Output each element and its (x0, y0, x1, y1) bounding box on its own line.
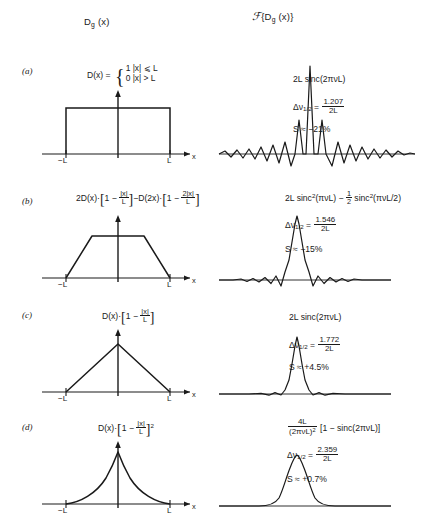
formula-b-p3: −D(2x)· (133, 193, 162, 203)
formula-b-frac2: 2|x|L (181, 190, 195, 206)
row-label-c: (c) (22, 310, 32, 320)
tick-c-xlabel: x (192, 390, 196, 399)
tick-d-xlabel: x (192, 502, 196, 511)
resolution-b-lead: Δν (285, 220, 295, 230)
column-header-spatial: Dg (x) (84, 16, 110, 28)
resolution-a-lead: Δν (293, 102, 303, 112)
transform-d-expression: 4L(2πνL)2 [1 − sinc(2πνL)] (287, 418, 380, 437)
formula-a: D(x) = {1 |x| ⩽ L0 |x| > L (87, 64, 158, 84)
fourier-script-icon: ℱ (252, 10, 261, 22)
header-left-arg: (x) (95, 16, 110, 27)
resolution-a-den: 2L (322, 107, 344, 115)
header-left-main: D (84, 16, 91, 27)
resolution-d-eq: = (306, 450, 316, 460)
row-d: (d) D(x)·[1 − |x|L]2 −L L x (0, 414, 441, 528)
transform-d-fraction: 4L(2πνL)2 (288, 418, 317, 437)
formula-b-p2: 1 − (105, 193, 120, 203)
tick-b-xlabel: x (192, 276, 196, 285)
tick-a-negL: −L (58, 156, 67, 165)
transform-c-expression: 2L sinc(2πνL) (289, 312, 341, 322)
transform-b-p4: (πνL/2) (373, 193, 401, 203)
apodization-figure: Dg (x) ℱ{Dg (x)} (a) D(x) = {1 |x| ⩽ L0 … (0, 0, 441, 528)
formula-d-p2: 1 − (122, 423, 137, 433)
tick-d-negL: −L (58, 506, 67, 515)
sidelobe-b: S ≈ −15% (285, 244, 322, 254)
formula-c-frac-den: L (140, 316, 149, 323)
transform-d-den-sup: 2 (312, 427, 315, 433)
resolution-b: Δν1/2 = 1.5462L (285, 216, 337, 234)
formula-a-lead: D(x) = (87, 70, 113, 80)
formula-a-cases: 1 |x| ⩽ L0 |x| > L (126, 64, 158, 84)
formula-b: 2D(x)·[1 − |x|L]−D(2x)·[1 − 2|x|L] (76, 190, 200, 206)
formula-b-frac1-den: L (119, 198, 128, 205)
header-right-open: {D (261, 11, 271, 22)
plot-a-spatial: −L L x (40, 86, 215, 168)
tick-c-posL: L (167, 394, 171, 403)
tick-a-posL: L (167, 156, 171, 165)
transform-d-frac-den: (2πνL)2 (288, 427, 317, 437)
panel-a-transform: 2L sinc(2πνL) Δν1/2 = 1.2072L S ≈ −21% (215, 58, 441, 178)
resolution-c: Δν1/2 = 1.7722L (289, 336, 341, 354)
transform-b-p2: (πνL) − (315, 193, 346, 203)
panel-c-transform: 2L sinc(2πνL) Δν1/2 = 1.7722L S ≈ +4.5% (215, 302, 441, 422)
row-label-d: (d) (22, 422, 33, 432)
plot-b-spatial: −L L x (40, 210, 215, 294)
resolution-c-fraction: 1.7722L (318, 336, 340, 354)
panel-d-transform: 4L(2πνL)2 [1 − sinc(2πνL)] Δν1/2 = 2.359… (215, 414, 441, 528)
formula-a-case2: 0 |x| > L (126, 74, 158, 84)
formula-c-p1: D(x)· (102, 311, 121, 321)
resolution-a: Δν1/2 = 1.2072L (293, 98, 345, 116)
transform-d-frac-num: 4L (288, 418, 317, 427)
transform-b-p3: sinc (352, 193, 370, 203)
header-right-close: (x)} (276, 11, 294, 22)
brace-icon: { (115, 69, 125, 83)
panel-a-spatial: D(x) = {1 |x| ⩽ L0 |x| > L −L (40, 58, 215, 178)
resolution-b-den: 2L (314, 225, 336, 233)
resolution-a-sub: 1/2 (303, 105, 312, 112)
resolution-d-sub: 1/2 (297, 453, 306, 460)
bracket-close-icon-2: ] (195, 195, 200, 205)
panel-b-spatial: 2D(x)·[1 − |x|L]−D(2x)·[1 − 2|x|L] −L L … (40, 188, 215, 308)
resolution-b-eq: = (304, 220, 314, 230)
formula-b-p4: 1 − (167, 193, 182, 203)
sidelobe-a: S ≈ −21% (293, 124, 330, 134)
panel-c-spatial: D(x)·[1 − |x|L] −L L x (40, 302, 215, 422)
formula-d: D(x)·[1 − |x|L]2 (98, 420, 154, 436)
resolution-c-den: 2L (318, 345, 340, 353)
row-label-a: (a) (22, 66, 33, 76)
row-a: (a) D(x) = {1 |x| ⩽ L0 |x| > L (0, 58, 441, 190)
bracket-close-icon-c: ] (150, 313, 155, 323)
tick-b-negL: −L (58, 280, 67, 289)
formula-b-p1: 2D(x)· (76, 193, 100, 203)
transform-d-den-base: (2πνL) (289, 428, 312, 437)
formula-c-p2: 1 − (126, 311, 141, 321)
row-b: (b) 2D(x)·[1 − |x|L]−D(2x)·[1 − 2|x|L] −… (0, 188, 441, 320)
tick-a-xlabel: x (192, 152, 196, 161)
panel-d-spatial: D(x)·[1 − |x|L]2 −L L x (40, 414, 215, 528)
resolution-c-eq: = (308, 340, 318, 350)
formula-d-p1: D(x)· (98, 423, 117, 433)
resolution-a-fraction: 1.2072L (322, 98, 344, 116)
sidelobe-c: S ≈ +4.5% (289, 362, 329, 372)
formula-d-exponent: 2 (150, 422, 153, 429)
sidelobe-d: S ≈ +0.7% (287, 474, 327, 484)
formula-d-frac-den: L (136, 428, 145, 435)
formula-c-frac: |x|L (140, 308, 149, 324)
formula-b-frac2-den: L (181, 198, 195, 205)
row-label-b: (b) (22, 196, 33, 206)
resolution-d-den: 2L (316, 455, 338, 463)
resolution-d-fraction: 2.3592L (316, 446, 338, 464)
column-header-transform: ℱ{Dg (x)} (252, 10, 294, 23)
formula-d-frac: |x|L (136, 420, 145, 436)
transform-a-expression: 2L sinc(2πνL) (293, 74, 345, 84)
panel-b-transform: 2L sinc2(πνL) − 12 sinc2(πνL/2) Δν1/2 = … (215, 188, 441, 308)
resolution-d: Δν1/2 = 2.3592L (287, 446, 339, 464)
resolution-c-sub: 1/2 (299, 343, 308, 350)
resolution-c-lead: Δν (289, 340, 299, 350)
tick-d-posL: L (167, 506, 171, 515)
formula-b-frac1: |x|L (119, 190, 128, 206)
tick-b-posL: L (167, 280, 171, 289)
transform-b-expression: 2L sinc2(πνL) − 12 sinc2(πνL/2) (285, 190, 401, 206)
transform-d-rest: [1 − sinc(2πνL)] (318, 423, 381, 433)
plot-d-spatial: −L L x (40, 436, 215, 520)
